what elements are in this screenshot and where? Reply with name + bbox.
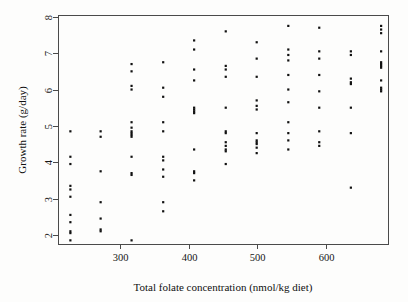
scatter-point (380, 25, 382, 27)
scatter-point (318, 27, 320, 29)
scatter-point (350, 50, 352, 52)
scatter-point (380, 67, 382, 69)
scatter-point (225, 107, 227, 109)
scatter-point (162, 176, 164, 178)
scatter-point (256, 58, 258, 60)
scatter-point (69, 130, 71, 132)
scatter-point (256, 76, 258, 78)
scatter-point (287, 101, 289, 103)
scatter-point (69, 188, 71, 190)
scatter-point (193, 48, 195, 50)
scatter-point (380, 50, 382, 52)
scatter-point (350, 107, 352, 109)
scatter-point (318, 90, 320, 92)
scatter-point (162, 121, 164, 123)
scatter-plot-canvas: 300400500600 2345678 Total folate concen… (0, 0, 408, 302)
scatter-point (130, 127, 132, 129)
scatter-point (100, 130, 102, 132)
scatter-point (193, 172, 195, 174)
scatter-point (256, 108, 258, 110)
scatter-point (287, 74, 289, 76)
y-tick-label: 8 (43, 15, 54, 20)
scatter-point (69, 185, 71, 187)
scatter-point (193, 68, 195, 70)
scatter-point (225, 141, 227, 143)
scatter-point (162, 156, 164, 158)
scatter-point (162, 96, 164, 98)
scatter-point (162, 159, 164, 161)
scatter-point (193, 148, 195, 150)
scatter-point (287, 25, 289, 27)
scatter-point (225, 68, 227, 70)
scatter-point (256, 132, 258, 134)
y-axis-ticks (53, 18, 58, 236)
scatter-point (225, 132, 227, 134)
scatter-points-layer (69, 25, 382, 242)
scatter-point (225, 163, 227, 165)
scatter-point (287, 139, 289, 141)
scatter-point (350, 83, 352, 85)
x-tick-label: 400 (182, 252, 198, 263)
scatter-point (287, 54, 289, 56)
scatter-point (100, 136, 102, 138)
scatter-point (193, 79, 195, 81)
scatter-point (130, 156, 132, 158)
y-tick-label: 6 (43, 88, 54, 93)
scatter-point (287, 148, 289, 150)
scatter-point (350, 132, 352, 134)
y-tick-label: 7 (43, 51, 54, 56)
scatter-point (318, 107, 320, 109)
x-axis-label: Total folate concentration (nmol/kg diet… (134, 281, 313, 294)
scatter-point (225, 76, 227, 78)
scatter-point (256, 105, 258, 107)
x-axis-tick-labels: 300400500600 (113, 252, 335, 263)
scatter-point (318, 74, 320, 76)
y-tick-label: 4 (43, 159, 54, 165)
scatter-point (380, 90, 382, 92)
scatter-point (193, 112, 195, 114)
scatter-point (100, 201, 102, 203)
scatter-point (130, 136, 132, 138)
scatter-point (162, 210, 164, 212)
y-tick-label: 3 (43, 197, 54, 202)
scatter-point (100, 230, 102, 232)
scatter-point (380, 79, 382, 81)
scatter-point (130, 70, 132, 72)
scatter-point (69, 163, 71, 165)
scatter-point (287, 88, 289, 90)
scatter-point (193, 39, 195, 41)
plot-frame (59, 16, 389, 245)
scatter-point (380, 28, 382, 30)
scatter-point (225, 145, 227, 147)
scatter-point (162, 168, 164, 170)
scatter-point (318, 50, 320, 52)
scatter-point (318, 130, 320, 132)
scatter-point (380, 32, 382, 34)
y-tick-label: 5 (43, 124, 54, 129)
scatter-point (130, 174, 132, 176)
scatter-point (256, 147, 258, 149)
scatter-point (350, 78, 352, 80)
scatter-point (130, 85, 132, 87)
scatter-point (130, 63, 132, 65)
scatter-point (350, 187, 352, 189)
scatter-point (100, 217, 102, 219)
scatter-point (69, 232, 71, 234)
scatter-point (130, 121, 132, 123)
scatter-point (225, 30, 227, 32)
scatter-point (193, 179, 195, 181)
scatter-point (69, 214, 71, 216)
scatter-point (162, 61, 164, 63)
scatter-point (162, 201, 164, 203)
scatter-point (318, 145, 320, 147)
scatter-point (256, 41, 258, 43)
scatter-point (162, 130, 164, 132)
scatter-point (225, 150, 227, 152)
scatter-point (350, 54, 352, 56)
scatter-point (225, 65, 227, 67)
scatter-point (256, 152, 258, 154)
y-axis-label: Growth rate (g/day) (16, 86, 29, 174)
scatter-point (256, 99, 258, 101)
scatter-point (287, 121, 289, 123)
x-tick-label: 500 (250, 252, 266, 263)
